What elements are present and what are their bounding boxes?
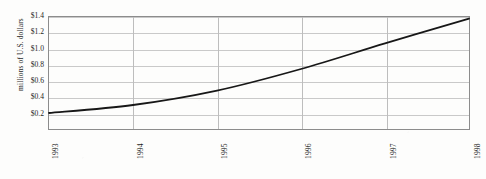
- y-tick-label: $0.6: [16, 77, 44, 85]
- x-tick-label: 1996: [304, 143, 313, 159]
- x-tick-label: 1994: [136, 143, 145, 159]
- y-tick-label: $1.0: [16, 45, 44, 53]
- y-axis-tick-labels: $0.2$0.4$0.6$0.8$1.0$1.2$1.4: [16, 0, 44, 179]
- x-tick-label: 1993: [51, 143, 60, 159]
- y-tick-label: $1.4: [16, 12, 44, 20]
- y-tick-label: $0.8: [16, 61, 44, 69]
- y-tick-label: $0.4: [16, 93, 44, 101]
- plot-area: [48, 16, 470, 130]
- line-chart-figure: millions of U.S. dollars $0.2$0.4$0.6$0.…: [0, 0, 486, 179]
- y-tick-label: $0.2: [16, 110, 44, 118]
- x-tick-label: 1998: [473, 143, 482, 159]
- series-path: [49, 19, 469, 113]
- series-line: [49, 17, 469, 129]
- x-tick-label: 1997: [389, 143, 398, 159]
- y-tick-label: $1.2: [16, 28, 44, 36]
- x-tick-label: 1995: [220, 143, 229, 159]
